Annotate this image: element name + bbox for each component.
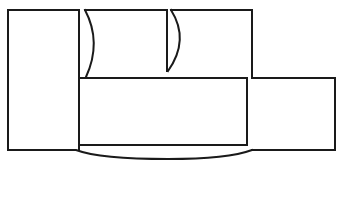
upper-right-piece [168,10,252,78]
bottom-curve [8,150,252,159]
inner-block [79,78,247,145]
left-block [8,10,79,150]
diagram-canvas [0,0,339,197]
right-wing [252,78,335,150]
upper-middle-piece [85,10,167,77]
